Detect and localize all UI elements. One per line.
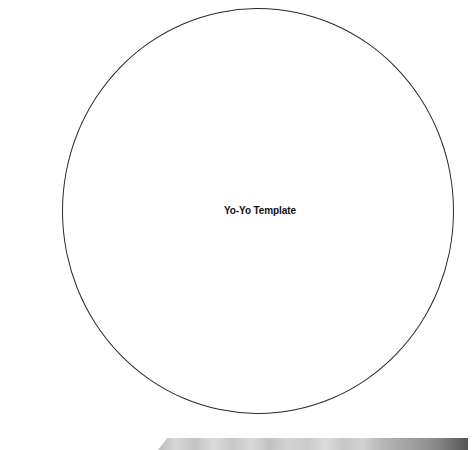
scanner-edge-strip <box>158 438 468 450</box>
template-title: Yo-Yo Template <box>0 205 472 216</box>
